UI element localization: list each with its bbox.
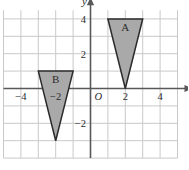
y-tick-label: 4: [81, 14, 87, 25]
shape-label-a: A: [121, 21, 129, 33]
y-axis-arrowhead: [87, 0, 94, 5]
x-tick-label: 2: [123, 91, 128, 102]
x-tick-label: 4: [157, 91, 163, 102]
shape-label-b: B: [52, 73, 59, 85]
y-tick-label: −2: [75, 118, 86, 129]
coordinate-plane: AB −4−22442−2 Oxy: [0, 0, 188, 170]
origin-label: O: [95, 91, 103, 102]
x-axis-arrowhead: [185, 85, 189, 92]
x-tick-label: −4: [15, 91, 27, 102]
coordinate-grid-figure: AB −4−22442−2 Oxy: [0, 0, 188, 170]
y-axis-label: y: [81, 0, 87, 7]
x-tick-label: −2: [50, 91, 61, 102]
y-tick-label: 2: [81, 49, 86, 60]
